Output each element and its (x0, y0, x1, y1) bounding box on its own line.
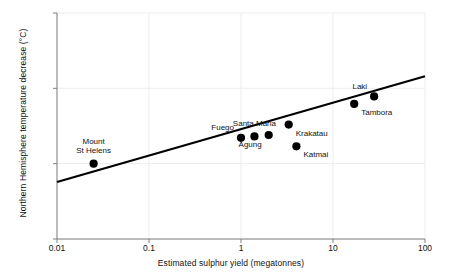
point-label-line: Tambora (361, 108, 392, 118)
point-label: Fuego (211, 123, 234, 133)
data-point-marker (265, 131, 273, 139)
point-label-line: Krakatau (296, 129, 328, 139)
data-point-marker (285, 121, 293, 129)
point-label: MountSt Helens (76, 137, 111, 156)
point-label-line: Mount (76, 137, 111, 147)
point-label-line: Katmai (303, 150, 328, 160)
data-point-marker (292, 142, 300, 150)
plot-area (0, 0, 462, 278)
point-label-line: Fuego (211, 123, 234, 133)
point-label-line: Santa Maria (233, 119, 276, 129)
point-label: Laki (352, 82, 367, 92)
point-label-line: St Helens (76, 146, 111, 156)
point-label: Krakatau (296, 129, 328, 139)
point-label-line: Agung (239, 140, 262, 150)
data-point-marker (350, 100, 358, 108)
point-label: Santa Maria (233, 119, 276, 129)
point-label-line: Laki (352, 82, 367, 92)
data-point-marker (370, 92, 378, 100)
point-label: Tambora (361, 108, 392, 118)
data-point-marker (90, 160, 98, 168)
chart-figure: Northern Hemisphere temperature decrease… (0, 0, 462, 278)
point-label: Agung (239, 140, 262, 150)
point-label: Katmai (303, 150, 328, 160)
